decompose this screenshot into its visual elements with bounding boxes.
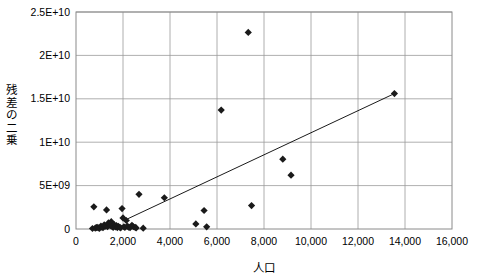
trend-line bbox=[127, 94, 394, 219]
y-axis-title-char-3: の bbox=[6, 109, 17, 122]
x-tick-label: 10,000 bbox=[295, 235, 327, 247]
trend-line-segment bbox=[127, 94, 394, 219]
x-tick-label: 12,000 bbox=[342, 235, 374, 247]
data-points bbox=[89, 29, 398, 232]
data-point-marker bbox=[140, 225, 147, 232]
x-tick-label: 16,000 bbox=[436, 235, 468, 247]
data-point-marker bbox=[245, 29, 252, 36]
y-tick-label: 1.5E+10 bbox=[31, 92, 71, 104]
x-tick-label: 0 bbox=[73, 235, 79, 247]
data-point-marker bbox=[200, 207, 207, 214]
data-point-marker bbox=[287, 172, 294, 179]
y-tick-label: 1E+10 bbox=[39, 136, 70, 148]
chart-canvas: 05E+091E+101.5E+102E+102.5E+10 02,0004,0… bbox=[0, 0, 483, 277]
data-point-marker bbox=[248, 202, 255, 209]
y-tick-label: 0 bbox=[64, 223, 70, 235]
y-axis-title: 残 差 の 二 乗 bbox=[4, 84, 18, 147]
y-tick-label: 2E+10 bbox=[39, 49, 70, 61]
y-axis-title-char-5: 乗 bbox=[6, 134, 17, 147]
y-axis-title-char-2: 差 bbox=[6, 97, 17, 110]
data-point-marker bbox=[103, 206, 110, 213]
x-axis-title: 人口 bbox=[253, 262, 275, 274]
data-point-marker bbox=[218, 106, 225, 113]
data-point-marker bbox=[279, 156, 286, 163]
y-tick-label: 5E+09 bbox=[39, 179, 70, 191]
x-axis-tick-labels: 02,0004,0006,0008,00010,00012,00014,0001… bbox=[73, 235, 468, 247]
data-point-marker bbox=[391, 90, 398, 97]
y-axis-title-char-1: 残 bbox=[6, 84, 17, 97]
data-point-marker bbox=[90, 203, 97, 210]
y-axis-title-char-4: 二 bbox=[6, 122, 17, 135]
data-point-marker bbox=[135, 191, 142, 198]
x-tick-label: 6,000 bbox=[204, 235, 230, 247]
x-tick-label: 8,000 bbox=[251, 235, 277, 247]
scatter-chart: 残 差 の 二 乗 05E+091E+101.5E+102E+102.5E+10… bbox=[0, 0, 483, 277]
data-point-marker bbox=[118, 205, 125, 212]
x-tick-label: 14,000 bbox=[389, 235, 421, 247]
y-axis-tick-labels: 05E+091E+101.5E+102E+102.5E+10 bbox=[31, 6, 71, 235]
y-tick-label: 2.5E+10 bbox=[31, 6, 71, 18]
data-point-marker bbox=[192, 220, 199, 227]
x-tick-label: 2,000 bbox=[110, 235, 136, 247]
x-tick-label: 4,000 bbox=[157, 235, 183, 247]
